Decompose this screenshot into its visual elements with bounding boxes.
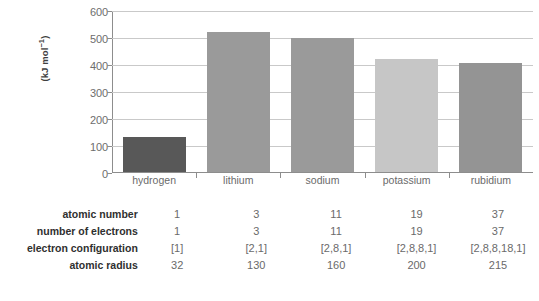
y-axis-tick-label: 0 <box>74 168 108 179</box>
table-cell-potassium: 19 <box>376 205 457 222</box>
ionisation-energy-bar-chart: (kJ mol−1) 0100200300400500600 hydrogenl… <box>0 0 539 190</box>
x-axis-category-label-lithium: lithium <box>196 174 280 186</box>
y-axis-tick-mark <box>107 38 112 39</box>
table-row-header: number of electrons <box>0 222 138 239</box>
y-axis-tick-label: 100 <box>74 141 108 152</box>
table-body: atomic number13111937number of electrons… <box>0 205 539 273</box>
y-axis-tick-mark <box>107 92 112 93</box>
table-cell-sodium: 11 <box>296 205 376 222</box>
x-axis-category-label-potassium: potassium <box>365 174 449 186</box>
y-axis-tick-mark <box>107 11 112 12</box>
table-cell-rubidium: [2,8,8,18,1] <box>457 239 539 256</box>
table-cell-hydrogen: 1 <box>138 222 217 239</box>
table-row: electron configuration[1][2,1][2,8,1][2,… <box>0 239 539 256</box>
y-axis-tick-label: 300 <box>74 87 108 98</box>
table-cell-rubidium: 37 <box>457 222 539 239</box>
x-axis-category-labels: hydrogenlithiumsodiumpotassiumrubidium <box>112 174 533 190</box>
table-cell-lithium: 3 <box>217 205 296 222</box>
table-cell-lithium: [2,1] <box>217 239 296 256</box>
table-cell-potassium: [2,8,8,1] <box>376 239 457 256</box>
y-axis-tick-mark <box>107 146 112 147</box>
bar-potassium <box>375 59 438 172</box>
table-cell-sodium: 160 <box>296 256 376 273</box>
table-cell-hydrogen: 32 <box>138 256 217 273</box>
table-row: atomic number13111937 <box>0 205 539 222</box>
bar-lithium <box>207 32 270 172</box>
y-axis-tick-mark <box>107 119 112 120</box>
bar-hydrogen <box>123 137 186 172</box>
element-properties-table: atomic number13111937number of electrons… <box>0 205 539 273</box>
y-axis-tick-label: 600 <box>74 6 108 17</box>
table-row-header: atomic number <box>0 205 138 222</box>
table-cell-hydrogen: [1] <box>138 239 217 256</box>
table-row: number of electrons13111937 <box>0 222 539 239</box>
y-axis-tick-labels: 0100200300400500600 <box>74 11 108 173</box>
x-axis-category-label-hydrogen: hydrogen <box>112 174 196 186</box>
table-cell-sodium: [2,8,1] <box>296 239 376 256</box>
table-row-header: atomic radius <box>0 256 138 273</box>
table-cell-sodium: 11 <box>296 222 376 239</box>
table-cell-potassium: 200 <box>376 256 457 273</box>
x-axis-category-label-rubidium: rubidium <box>449 174 533 186</box>
table-row-header: electron configuration <box>0 239 138 256</box>
table-cell-lithium: 130 <box>217 256 296 273</box>
table-cell-potassium: 19 <box>376 222 457 239</box>
table-row: atomic radius32130160200215 <box>0 256 539 273</box>
table-cell-lithium: 3 <box>217 222 296 239</box>
table-cell-rubidium: 37 <box>457 205 539 222</box>
table-cell-rubidium: 215 <box>457 256 539 273</box>
y-axis-title: (kJ mol−1) <box>37 0 50 119</box>
bar-sodium <box>291 38 354 172</box>
y-axis-tick-mark <box>107 65 112 66</box>
y-axis-tick-label: 400 <box>74 60 108 71</box>
y-axis-tick-label: 200 <box>74 114 108 125</box>
x-axis-line <box>112 172 533 173</box>
x-axis-category-label-sodium: sodium <box>280 174 364 186</box>
gridline <box>112 11 533 12</box>
bar-rubidium <box>459 63 522 172</box>
plot-area <box>112 11 533 173</box>
y-axis-title-text: (kJ mol−1) <box>40 36 51 82</box>
y-axis-tick-label: 500 <box>74 33 108 44</box>
table-cell-hydrogen: 1 <box>138 205 217 222</box>
